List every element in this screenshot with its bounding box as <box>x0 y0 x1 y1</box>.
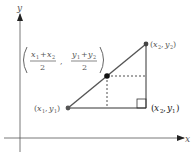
label-midpoint-formula: x 1 + x 2 2 , y 1 + y 2 2 <box>24 47 104 73</box>
svg-text:2: 2 <box>82 63 87 72</box>
svg-text:): ) <box>57 104 60 113</box>
y-axis-label: y <box>16 3 23 13</box>
svg-text:1: 1 <box>77 54 80 60</box>
svg-text:): ) <box>176 103 180 113</box>
point-midpoint <box>104 73 110 79</box>
midpoint-diagram: x y ( x 1 , y 1 ) ( x 2 , y 2 ) ( x 2 , … <box>0 0 192 156</box>
svg-text:): ) <box>173 40 176 49</box>
svg-text:2: 2 <box>40 63 45 72</box>
svg-text:1: 1 <box>36 54 39 60</box>
svg-text:,: , <box>60 57 63 66</box>
label-p1: ( x 1 , y 1 ) <box>34 104 60 114</box>
left-paren <box>24 47 28 73</box>
svg-text:,: , <box>45 104 48 113</box>
label-corner: ( x 2 , y 1 ) <box>151 103 180 114</box>
svg-text:x: x <box>154 103 159 113</box>
svg-text:,: , <box>163 103 166 113</box>
point-p2 <box>144 42 149 47</box>
svg-text:+: + <box>40 50 47 59</box>
svg-text:,: , <box>161 40 164 49</box>
svg-text:1: 1 <box>172 108 176 114</box>
svg-text:2: 2 <box>52 54 55 60</box>
right-paren <box>100 47 104 73</box>
svg-text:+: + <box>81 50 88 59</box>
x-axis-label: x <box>185 134 190 144</box>
point-p1 <box>66 106 71 111</box>
right-angle-marker <box>137 99 146 108</box>
label-p2: ( x 2 , y 2 ) <box>150 40 176 50</box>
svg-text:2: 2 <box>93 54 96 60</box>
